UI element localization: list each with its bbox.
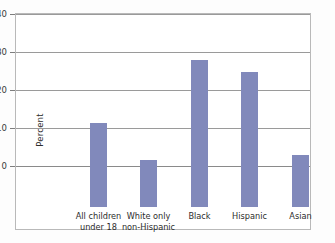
y-tick-label-40: 40 [0, 10, 7, 19]
gridline-40: 40 [16, 14, 310, 15]
x-axis-label-black: Black [188, 211, 210, 222]
x-axis-label-hispanic: Hispanic [232, 211, 267, 222]
x-label-line1: White only [127, 211, 171, 221]
bar-hispanic [241, 72, 258, 207]
y-tick-mark-30 [10, 52, 15, 53]
y-axis-label: Percent [35, 113, 45, 146]
y-tick-mark-20 [10, 90, 15, 91]
x-axis-label-all-children-under-18: All children under 18 [76, 211, 122, 233]
x-label-line1: Hispanic [232, 211, 267, 221]
chart-figure: Percent 40 30 20 10 0 [0, 0, 335, 243]
y-tick-mark-10 [10, 128, 15, 129]
y-tick-label-20: 20 [0, 86, 7, 95]
x-label-line2: non-Hispanic [122, 222, 175, 233]
y-tick-mark-40 [10, 14, 15, 15]
bar-white-only-non-hispanic [140, 160, 157, 207]
plot-area: All children under 18 White only non-His… [74, 54, 328, 207]
x-label-line1: Asian [289, 211, 311, 221]
bar-all-children-under-18 [90, 123, 107, 207]
x-label-line1: Black [188, 211, 210, 221]
bar-black [191, 60, 208, 207]
y-tick-mark-0 [10, 166, 15, 167]
bar-asian [292, 155, 309, 207]
y-tick-label-0: 0 [2, 162, 7, 171]
x-label-line1: All children [76, 211, 122, 221]
y-tick-label-10: 10 [0, 124, 7, 133]
gridline-30: 30 [16, 52, 310, 53]
x-axis-label-white-only-non-hispanic: White only non-Hispanic [122, 211, 175, 233]
chart-frame: Percent 40 30 20 10 0 [15, 13, 311, 230]
y-tick-label-30: 30 [0, 48, 7, 57]
x-axis-label-asian: Asian [289, 211, 311, 222]
x-label-line2: under 18 [76, 222, 122, 233]
